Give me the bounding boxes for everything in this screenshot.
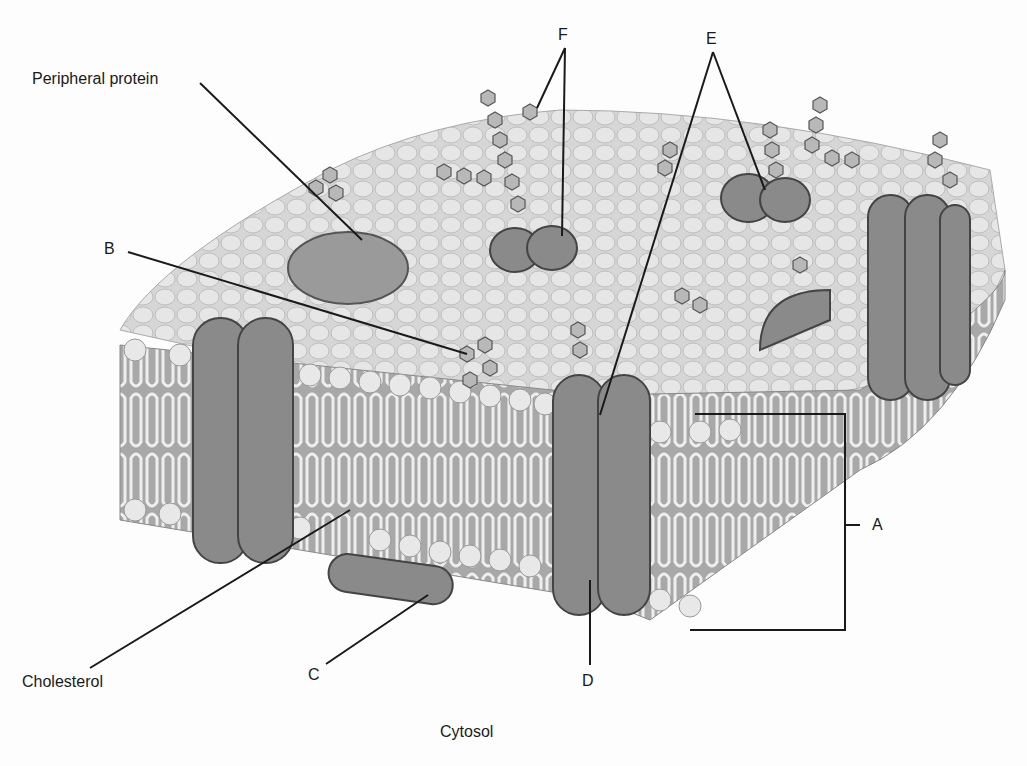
integral-protein-right [868, 195, 970, 400]
glycoprotein-e [721, 174, 810, 222]
label-e: E [706, 30, 717, 48]
label-cytosol: Cytosol [440, 723, 493, 741]
label-cholesterol: Cholesterol [22, 673, 103, 691]
label-b: B [104, 240, 115, 258]
label-f: F [558, 26, 568, 44]
label-a: A [872, 516, 883, 534]
membrane-diagram: Peripheral protein B F E A Cholesterol C… [0, 0, 1027, 766]
label-d: D [582, 672, 594, 690]
integral-protein-left [193, 318, 293, 563]
glycoprotein-f [490, 226, 577, 272]
label-c: C [308, 666, 320, 684]
label-peripheral-protein: Peripheral protein [32, 70, 158, 88]
membrane-illustration [0, 0, 1027, 766]
peripheral-protein-shape [288, 232, 408, 304]
